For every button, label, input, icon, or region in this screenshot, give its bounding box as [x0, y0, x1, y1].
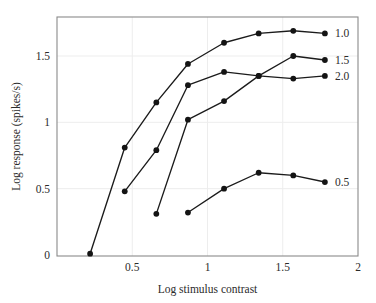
y-tick-label-2: 1: [44, 116, 50, 128]
data-point-2.0-1: [153, 147, 159, 153]
x-tick-label-3: 2: [355, 261, 361, 273]
line-chart-canvas: 1.02.01.50.50.511.5200.511.5Log stimulus…: [0, 0, 376, 303]
data-point-1.5-2: [221, 98, 227, 104]
series-label-1.5: 1.5: [335, 54, 350, 66]
data-point-1.5-1: [185, 117, 191, 123]
data-point-2.0-0: [122, 188, 128, 194]
y-axis-title: Log response (spikes/s): [10, 82, 23, 191]
series-label-0.5: 0.5: [335, 176, 350, 188]
series-line-0.5: [188, 173, 325, 213]
data-point-2.0-6: [322, 73, 328, 79]
data-point-2.0-5: [290, 76, 296, 82]
data-point-1.0-2: [153, 100, 159, 106]
series-line-1.5: [156, 56, 325, 214]
data-point-1.0-0: [87, 251, 93, 257]
data-point-0.5-2: [256, 170, 262, 176]
data-point-0.5-3: [290, 173, 296, 179]
data-point-0.5-1: [221, 186, 227, 192]
data-point-1.0-1: [122, 145, 128, 151]
data-point-0.5-0: [185, 210, 191, 216]
series-label-1.0: 1.0: [335, 27, 350, 39]
data-point-1.0-6: [290, 28, 296, 34]
chart-figure: 1.02.01.50.50.511.5200.511.5Log stimulus…: [0, 0, 376, 303]
data-point-2.0-3: [221, 69, 227, 75]
data-point-0.5-4: [322, 179, 328, 185]
x-tick-label-1: 1: [205, 261, 211, 273]
y-tick-label-0: 0: [44, 249, 50, 261]
data-point-1.0-4: [221, 40, 227, 46]
data-point-1.0-7: [322, 31, 328, 37]
data-point-1.5-0: [153, 211, 159, 217]
data-point-1.5-5: [322, 57, 328, 63]
data-point-2.0-2: [185, 82, 191, 88]
data-point-1.5-3: [256, 73, 262, 79]
data-point-1.5-4: [290, 53, 296, 59]
series-label-2.0: 2.0: [335, 70, 350, 82]
data-point-1.0-5: [256, 31, 262, 37]
data-point-1.0-3: [185, 61, 191, 67]
x-tick-label-0: 0.5: [125, 261, 140, 273]
x-tick-label-2: 1.5: [276, 261, 291, 273]
y-tick-label-1: 0.5: [36, 183, 51, 195]
y-tick-label-3: 1.5: [36, 50, 51, 62]
x-axis-title: Log stimulus contrast: [158, 283, 258, 296]
